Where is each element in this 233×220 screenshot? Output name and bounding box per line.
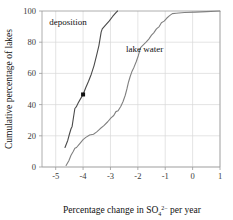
annotation-deposition: deposition bbox=[49, 17, 87, 27]
x-tick-label: 1 bbox=[218, 171, 222, 181]
y-tick-label: 80 bbox=[28, 37, 37, 47]
y-tick-label: 60 bbox=[28, 68, 37, 78]
y-tick-label: 40 bbox=[28, 100, 37, 110]
y-tick-label: 100 bbox=[23, 6, 36, 16]
chart-figure: -5-4-3-2-101 020406080100 depositionlake… bbox=[0, 0, 233, 220]
x-tick-label: -1 bbox=[162, 171, 169, 181]
x-tick-label: -3 bbox=[107, 171, 114, 181]
deposition-highlight-point bbox=[81, 92, 85, 96]
y-tick-label: 20 bbox=[28, 131, 37, 141]
x-tick-label: -2 bbox=[134, 171, 141, 181]
annotation-lake-water: lake water bbox=[126, 44, 163, 54]
y-tick-label: 0 bbox=[32, 162, 36, 172]
x-tick-label: 0 bbox=[190, 171, 194, 181]
y-axis-title: Cumulative percentage of lakes bbox=[4, 29, 14, 149]
x-tick-label: -4 bbox=[80, 171, 88, 181]
chart-background bbox=[0, 0, 233, 220]
x-tick-label: -5 bbox=[52, 171, 59, 181]
x-axis-title: Percentage change in SO42− per year bbox=[63, 205, 202, 217]
data-point-markers bbox=[81, 92, 85, 96]
cumulative-percentage-chart: -5-4-3-2-101 020406080100 depositionlake… bbox=[0, 0, 233, 220]
